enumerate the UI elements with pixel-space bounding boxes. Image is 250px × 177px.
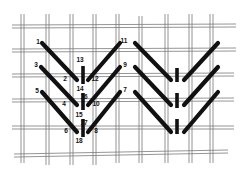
point-label-13: 13 — [76, 56, 84, 63]
repeat-motif — [135, 43, 218, 134]
point-label-1: 1 — [36, 38, 40, 45]
point-label-11: 11 — [121, 37, 128, 44]
point-label-6: 6 — [64, 127, 68, 134]
point-label-5: 5 — [35, 87, 39, 94]
point-label-17: 17 — [80, 119, 88, 126]
point-label-4: 4 — [62, 100, 66, 107]
point-label-18: 18 — [75, 137, 83, 144]
stitch-diagram: 123456789101112131415161718 — [0, 0, 250, 177]
point-label-16: 16 — [80, 93, 88, 100]
point-label-9: 9 — [123, 61, 127, 68]
point-label-2: 2 — [63, 75, 67, 82]
point-label-8: 8 — [94, 127, 98, 134]
point-label-12: 12 — [91, 75, 99, 82]
point-label-10: 10 — [92, 100, 100, 107]
point-label-7: 7 — [123, 86, 127, 93]
point-label-14: 14 — [76, 85, 84, 92]
point-label-15: 15 — [75, 111, 83, 118]
point-label-3: 3 — [34, 61, 38, 68]
